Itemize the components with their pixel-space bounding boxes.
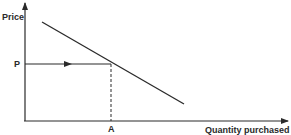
demand-diagram: Price P A Quantity purchased: [0, 0, 291, 135]
quantity-marker-label: A: [108, 125, 115, 134]
diagram-svg: [0, 0, 291, 135]
price-marker-label: P: [14, 60, 20, 69]
price-line-arrow-icon: [64, 61, 72, 67]
y-axis-label: Price: [2, 13, 24, 22]
demand-curve: [42, 22, 184, 104]
x-axis-label: Quantity purchased: [205, 126, 290, 135]
